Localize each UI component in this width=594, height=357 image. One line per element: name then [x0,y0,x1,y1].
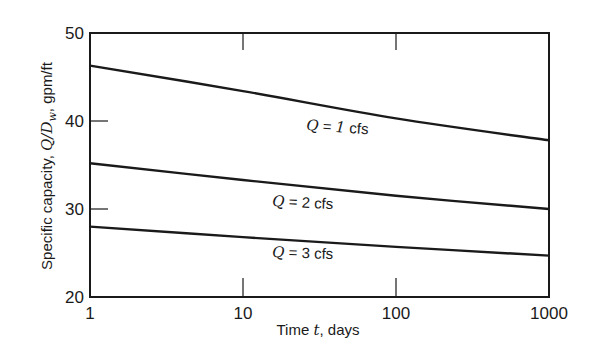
data-curves [90,66,549,256]
y-axis-label: Specific capacity, Q/Dw, gpm/ft [38,61,59,270]
curve-label: Q = 2 cfs [272,192,334,213]
curve-label: Q = 1 cfs [306,116,369,138]
y-tick-label: 30 [65,200,84,219]
x-tick-label: 100 [382,304,410,323]
axis-ticks: 110100100020304050 [65,24,568,323]
y-tick-label: 40 [65,112,84,131]
x-tick-label: 10 [234,304,253,323]
chart: 110100100020304050 Q = 1 cfsQ = 2 cfsQ =… [0,0,594,357]
y-tick-label: 50 [65,24,84,43]
curve-label: Q = 3 cfs [272,243,334,263]
y-tick-label: 20 [65,288,84,307]
x-axis-label: Time t, days [276,321,359,339]
x-tick-label: 1 [85,304,94,323]
x-tick-label: 1000 [530,304,568,323]
